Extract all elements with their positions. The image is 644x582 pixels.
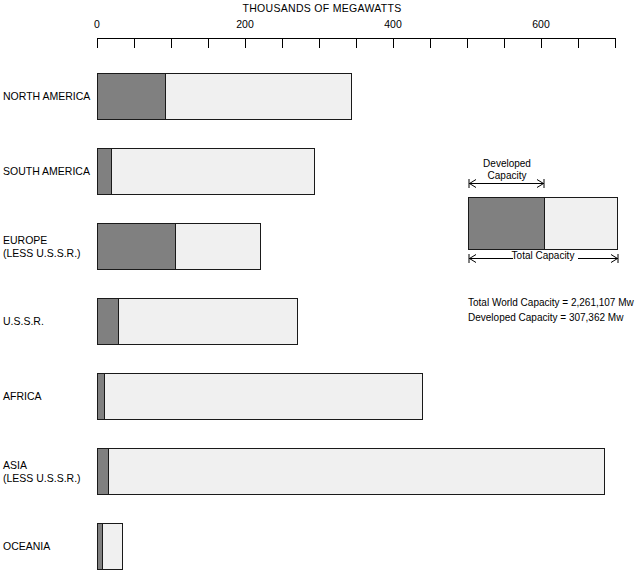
- axis-tick-label: 600: [532, 18, 550, 30]
- axis-tick: [319, 38, 320, 48]
- axis-tick: [504, 38, 505, 48]
- bar-label-line2: (LESS U.S.S.R.): [3, 247, 81, 260]
- bar-developed-segment: [98, 74, 166, 119]
- bar-label-line1: NORTH AMERICA: [3, 90, 90, 103]
- bar-developed-segment: [98, 224, 176, 269]
- bar-label: SOUTH AMERICA: [3, 165, 90, 178]
- bar-developed-segment: [98, 299, 119, 344]
- bar-label: AFRICA: [3, 390, 42, 403]
- bar-total-segment: [97, 373, 423, 420]
- bar-label-line1: ASIA: [3, 459, 81, 472]
- bar-label-line1: AFRICA: [3, 390, 42, 403]
- axis-tick: [245, 38, 246, 48]
- axis-tick: [393, 38, 394, 48]
- axis-tick: [282, 38, 283, 48]
- axis-tick: [356, 38, 357, 48]
- bar-label-line1: EUROPE: [3, 234, 81, 247]
- legend-total-label: Total Capacity: [468, 250, 618, 261]
- axis-tick: [615, 38, 616, 48]
- bar-total-segment: [97, 448, 605, 495]
- capacity-bar-chart: THOUSANDS OF MEGAWATTS 0200400600 NORTH …: [0, 0, 644, 582]
- legend-sample-developed-segment: [469, 198, 545, 249]
- legend-developed-line1: Developed: [468, 158, 546, 170]
- capacity-stats: Total World Capacity = 2,261,107 Mw Deve…: [468, 295, 634, 325]
- axis-tick-label: 0: [94, 18, 100, 30]
- bar-total-segment: [97, 148, 315, 195]
- stat-developed-capacity: Developed Capacity = 307,362 Mw: [468, 310, 634, 325]
- axis-tick: [208, 38, 209, 48]
- bar-label: U.S.S.R.: [3, 315, 44, 328]
- developed-capacity-arrow-icon: [468, 178, 545, 189]
- bar-total-segment: [97, 73, 352, 120]
- bar-label-line1: U.S.S.R.: [3, 315, 44, 328]
- bar-developed-segment: [98, 524, 103, 569]
- bar-developed-segment: [98, 374, 105, 419]
- axis-tick-label: 400: [384, 18, 402, 30]
- bar-total-segment: [97, 223, 261, 270]
- bar-label: NORTH AMERICA: [3, 90, 90, 103]
- bar-label-line1: SOUTH AMERICA: [3, 165, 90, 178]
- legend-sample-bar: [468, 197, 618, 250]
- bar-developed-segment: [98, 449, 109, 494]
- bar-total-segment: [97, 523, 123, 570]
- axis-tick: [134, 38, 135, 48]
- bar-developed-segment: [98, 149, 112, 194]
- axis-tick-label: 200: [236, 18, 254, 30]
- bar-total-segment: [97, 298, 298, 345]
- bar-label: OCEANIA: [3, 540, 50, 553]
- axis-tick: [171, 38, 172, 48]
- bar-label: ASIA(LESS U.S.S.R.): [3, 459, 81, 485]
- axis-tick: [430, 38, 431, 48]
- bar-label-line2: (LESS U.S.S.R.): [3, 472, 81, 485]
- axis-tick: [97, 38, 98, 48]
- x-axis: 0200400600: [0, 0, 644, 60]
- bar-label-line1: OCEANIA: [3, 540, 50, 553]
- axis-tick: [467, 38, 468, 48]
- bar-label: EUROPE(LESS U.S.S.R.): [3, 234, 81, 260]
- axis-tick: [541, 38, 542, 48]
- stat-total-world-capacity: Total World Capacity = 2,261,107 Mw: [468, 295, 634, 310]
- axis-tick: [578, 38, 579, 48]
